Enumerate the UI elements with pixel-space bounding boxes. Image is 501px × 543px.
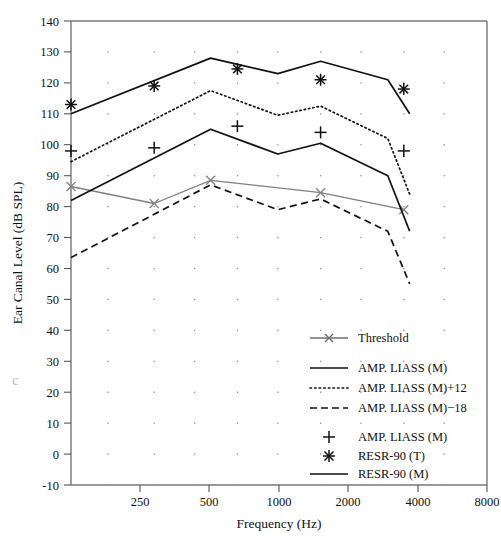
legend-label: AMP. LIASS (M) [358,361,447,375]
chart-legend: Threshold AMP. LIASS (M) AMP. LIASS (M)+… [310,331,467,481]
legend-item-resr90-t: RESR-90 (T) [323,449,425,463]
y-tick-label: 80 [47,200,60,214]
y-tick-label: 120 [40,76,59,90]
legend-label: RESR-90 (T) [358,449,425,463]
legend-label: AMP. LIASS (M)+12 [358,381,467,395]
x-tick-label: 500 [200,495,219,509]
legend-item-amp-liass-m-plus12: AMP. LIASS (M)+12 [310,381,467,395]
series-3 [71,91,410,195]
x-tick-labels: 250 500 1000 2000 4000 8000 [131,495,500,509]
series-2 [71,129,410,231]
legend-item-threshold: Threshold [310,331,409,345]
legend-item-resr90-m: RESR-90 (M) [310,467,429,481]
legend-item-amp-liass-m: AMP. LIASS (M) [310,361,447,375]
y-tick-label: -10 [42,479,59,493]
legend-item-amp-liass-m-points: AMP. LIASS (M) [323,430,447,444]
y-tick-label: 10 [47,417,60,431]
plot-frame [71,21,487,485]
y-tick-label: 90 [47,169,60,183]
x-tick-label: 2000 [336,495,361,509]
legend-label: RESR-90 (M) [358,467,429,481]
legend-label: Threshold [358,331,409,345]
y-tick-label: 20 [47,386,60,400]
legend-item-amp-liass-m-minus18: AMP. LIASS (M)−18 [310,401,467,415]
x-tick-label: 8000 [475,495,500,509]
margin-artifact-mark: c [12,373,18,388]
series-4 [71,185,410,284]
x-axis-ticks [140,485,487,492]
legend-label: AMP. LIASS (M) [358,430,447,444]
x-tick-label: 4000 [406,495,431,509]
legend-label: AMP. LIASS (M)−18 [358,401,467,415]
data-series-layer [65,58,410,284]
series-7 [65,63,410,111]
y-tick-label: 50 [47,293,60,307]
asterisk-marker-icon [323,450,335,462]
y-tick-label: 0 [53,448,59,462]
y-axis-ticks [64,21,71,485]
y-tick-label: 60 [47,262,60,276]
y-tick-label: 110 [41,107,59,121]
y-tick-labels: 140 130 120 110 100 90 80 70 60 50 40 30… [40,15,59,493]
y-tick-label: 140 [40,15,59,29]
y-tick-label: 30 [47,355,60,369]
x-tick-label: 1000 [267,495,292,509]
y-axis-title: Ear Canal Level (dB SPL) [10,182,25,324]
line-chart: 140 130 120 110 100 90 80 70 60 50 40 30… [0,0,501,543]
x-tick-label: 250 [131,495,150,509]
y-tick-label: 130 [40,45,59,59]
plus-marker-icon [323,431,335,443]
y-tick-label: 100 [40,138,59,152]
y-tick-label: 40 [47,324,60,338]
y-tick-label: 70 [47,231,60,245]
x-axis-title: Frequency (Hz) [236,516,321,531]
chart-figure: 140 130 120 110 100 90 80 70 60 50 40 30… [0,0,501,543]
